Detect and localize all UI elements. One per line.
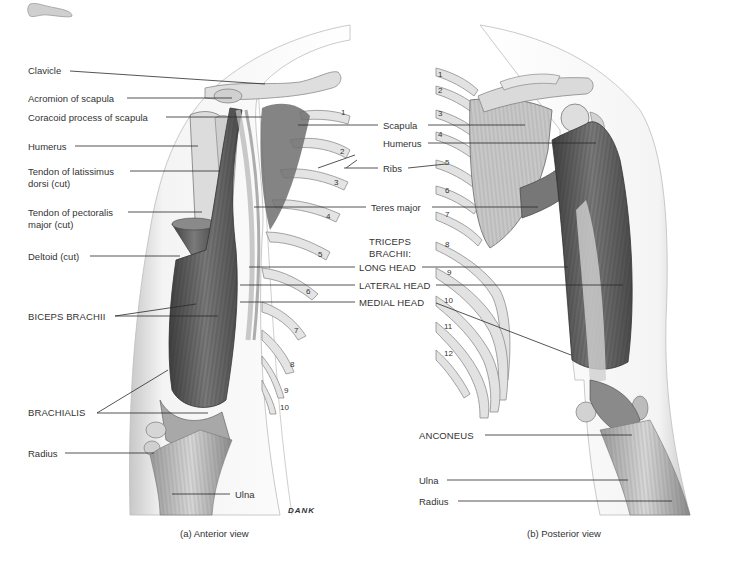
label-medial-head: MEDIAL HEAD <box>359 297 424 308</box>
rib-number-posterior-3: 3 <box>438 109 442 118</box>
rib-number-posterior-6: 6 <box>445 186 449 195</box>
label-ribs: Ribs <box>383 163 402 174</box>
label-long-head: LONG HEAD <box>359 262 416 273</box>
label-tendon-latissimus-dorsi-line2: dorsi (cut) <box>28 178 70 189</box>
label-clavicle: Clavicle <box>28 65 61 76</box>
rib-number-posterior-7: 7 <box>445 210 449 219</box>
label-radius-posterior: Radius <box>419 496 449 507</box>
label-anconeus: ANCONEUS <box>419 430 474 441</box>
rib-number-posterior-1: 1 <box>438 70 442 79</box>
label-deltoid-cut: Deltoid (cut) <box>28 251 79 262</box>
label-triceps-brachii-line1: TRICEPS <box>369 236 411 247</box>
label-tendon-pectoralis-major-line2: major (cut) <box>28 219 73 230</box>
rib-number-posterior-9: 9 <box>447 268 451 277</box>
label-ulna-anterior: Ulna <box>235 489 255 500</box>
label-teres-major: Teres major <box>371 202 421 213</box>
label-ulna-posterior: Ulna <box>419 475 439 486</box>
artist-signature: DANK <box>288 506 315 515</box>
rib-number-anterior-4: 4 <box>326 212 330 221</box>
rib-number-posterior-12: 12 <box>444 349 453 358</box>
caption-posterior-view: (b) Posterior view <box>527 528 601 539</box>
label-acromion-of-scapula: Acromion of scapula <box>28 93 114 104</box>
label-tendon-pectoralis-major-line1: Tendon of pectoralis <box>28 207 113 218</box>
rib-number-anterior-7: 7 <box>294 326 298 335</box>
rib-number-posterior-2: 2 <box>438 86 442 95</box>
rib-number-posterior-11: 11 <box>444 322 452 331</box>
corner-bone-icon <box>28 3 72 16</box>
label-brachialis: BRACHIALIS <box>28 407 86 418</box>
label-humerus-anterior: Humerus <box>28 141 67 152</box>
rib-number-anterior-2: 2 <box>340 147 344 156</box>
label-triceps-brachii-line2: BRACHII: <box>369 248 411 259</box>
label-biceps-brachii: BICEPS BRACHII <box>28 311 105 322</box>
arm-muscle-diagram: Clavicle Acromion of scapula Coracoid pr… <box>0 0 732 568</box>
label-humerus-posterior: Humerus <box>383 138 422 149</box>
rib-number-posterior-8: 8 <box>445 240 449 249</box>
rib-number-anterior-6: 6 <box>306 287 310 296</box>
label-scapula: Scapula <box>383 120 417 131</box>
label-radius-anterior: Radius <box>28 448 58 459</box>
rib-number-anterior-8: 8 <box>290 360 294 369</box>
rib-number-posterior-5: 5 <box>445 158 449 167</box>
rib-number-anterior-1: 1 <box>341 108 345 117</box>
rib-number-posterior-4: 4 <box>438 130 442 139</box>
label-coracoid-process: Coracoid process of scapula <box>28 112 148 123</box>
rib-number-anterior-3: 3 <box>334 178 338 187</box>
rib-number-anterior-9: 9 <box>284 386 288 395</box>
anterior-view-art <box>130 25 350 515</box>
rib-number-anterior-10: 10 <box>280 403 289 412</box>
posterior-view-art <box>436 25 690 515</box>
rib-number-anterior-5: 5 <box>318 250 322 259</box>
rib-number-posterior-10: 10 <box>444 296 453 305</box>
label-tendon-latissimus-dorsi-line1: Tendon of latissimus <box>28 166 114 177</box>
label-lateral-head: LATERAL HEAD <box>359 280 430 291</box>
caption-anterior-view: (a) Anterior view <box>180 528 249 539</box>
